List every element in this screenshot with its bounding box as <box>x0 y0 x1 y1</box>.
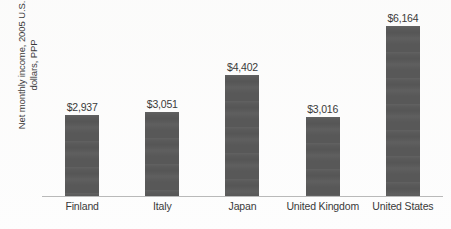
y-axis-title: Net monthly income, 2005 U.S. dollars, P… <box>11 1 45 129</box>
x-axis-category-labels: Finland Italy Japan United Kingdom Unite… <box>42 200 443 222</box>
plot-area: $2,937 $3,051 $4,402 $3,016 $6,164 <box>42 0 443 197</box>
bar-value-label-finland: $2,937 <box>67 101 98 113</box>
bar-value-label-united-states: $6,164 <box>387 12 418 24</box>
y-axis-title-line-1: Net monthly income, 2005 U.S. <box>16 1 28 130</box>
bar-value-label-japan: $4,402 <box>227 61 258 73</box>
bar-slot-finland: $2,937 <box>42 0 122 197</box>
bar-slot-italy: $3,051 <box>122 0 202 197</box>
category-label-united-kingdom: United Kingdom <box>283 200 363 212</box>
category-label-italy: Italy <box>122 200 202 212</box>
category-label-united-states: United States <box>363 200 443 212</box>
bar-italy[interactable] <box>145 112 179 196</box>
category-label-finland: Finland <box>42 200 122 212</box>
bar-united-states[interactable] <box>386 26 420 196</box>
bar-finland[interactable] <box>65 115 99 196</box>
bar-chart: Net monthly income, 2005 U.S. dollars, P… <box>0 0 451 229</box>
bar-value-label-united-kingdom: $3,016 <box>307 103 338 115</box>
bar-japan[interactable] <box>225 75 259 196</box>
bar-united-kingdom[interactable] <box>306 117 340 196</box>
bar-value-label-italy: $3,051 <box>147 98 178 110</box>
x-axis-line <box>42 196 443 197</box>
category-label-japan: Japan <box>202 200 282 212</box>
y-axis-title-line-2: dollars, PPP <box>28 39 40 90</box>
bar-slot-united-kingdom: $3,016 <box>283 0 363 197</box>
bar-slot-japan: $4,402 <box>202 0 282 197</box>
bar-slot-united-states: $6,164 <box>363 0 443 197</box>
